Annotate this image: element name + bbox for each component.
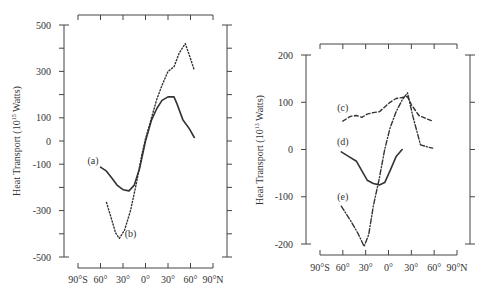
x-axis-top: [78, 15, 213, 20]
x-tick-label: 60°: [427, 262, 441, 273]
y-tick-label: 0: [288, 144, 293, 155]
curve-label: (e): [337, 191, 348, 203]
y-axis-title: Heat Transport (1015 Watts): [11, 86, 23, 196]
y-tick-label: 100: [278, 97, 293, 108]
y-tick-label: 0: [46, 136, 51, 147]
y-axis-left: 5003001000-100-300-500: [33, 20, 69, 263]
y-tick-label: 500: [36, 20, 51, 31]
x-tick-label: 60°: [94, 274, 108, 285]
y-axis-right: [222, 25, 232, 257]
y-tick-label: -200: [275, 239, 293, 250]
series-line-c: [343, 97, 433, 122]
x-tick-label: 90°S: [310, 262, 330, 273]
x-tick-label: 0°: [141, 274, 150, 285]
y-tick-label: 100: [36, 112, 51, 123]
y-tick-label: -300: [33, 205, 51, 216]
x-tick-label: 0°: [384, 262, 393, 273]
y-tick-label: -100: [275, 191, 293, 202]
right-chart-panel: 2001000-100-200Heat Transport (1013 Watt…: [254, 44, 475, 273]
x-tick-label: 30°: [359, 262, 373, 273]
x-tick-label: 30°: [161, 274, 175, 285]
y-axis-title: Heat Transport (1013 Watts): [254, 95, 266, 205]
y-tick-label: -100: [33, 159, 51, 170]
series-line-a: [101, 97, 195, 191]
x-tick-label: 60°: [184, 274, 198, 285]
x-axis-top: [320, 44, 457, 49]
series-line-d: [341, 150, 402, 185]
y-tick-label: -500: [33, 252, 51, 263]
y-axis-left: 2001000-100-200: [275, 50, 311, 250]
x-tick-label: 60°: [336, 262, 350, 273]
y-tick-label: 200: [278, 50, 293, 61]
y-axis-right: [465, 55, 475, 244]
x-tick-label: 90°N: [446, 262, 467, 273]
curve-label: (b): [125, 228, 137, 240]
y-tick-label: 300: [36, 66, 51, 77]
x-tick-label: 30°: [116, 274, 130, 285]
x-tick-label: 30°: [404, 262, 418, 273]
curve-label: (d): [337, 136, 349, 148]
series-line-b: [107, 44, 195, 239]
x-axis-bottom: 90°S60°30°0°30°60°90°N: [310, 250, 467, 273]
chart-canvas: 5003001000-100-300-500Heat Transport (10…: [0, 0, 485, 298]
x-tick-label: 90°N: [202, 274, 223, 285]
x-axis-bottom: 90°S60°30°0°30°60°90°N: [68, 263, 223, 285]
x-tick-label: 90°S: [68, 274, 88, 285]
curve-label: (a): [87, 155, 98, 167]
curve-label: (c): [337, 102, 348, 114]
left-chart-panel: 5003001000-100-300-500Heat Transport (10…: [11, 15, 232, 285]
